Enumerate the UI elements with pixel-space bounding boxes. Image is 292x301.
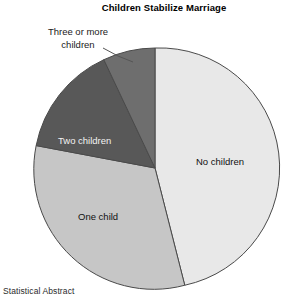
slice-label-no-children: No children [196,156,244,168]
slice-label-two-children: Two children [58,135,111,147]
pie-chart-figure: Children Stabilize Marriage Three or mor… [0,0,292,301]
slice-label-one-child: One child [78,211,118,223]
callout-three-or-more-children: Three or more children [26,25,130,51]
source-note: Statistical Abstract [3,286,74,297]
callout-line-2: children [61,39,94,50]
callout-line-1: Three or more [48,26,108,37]
